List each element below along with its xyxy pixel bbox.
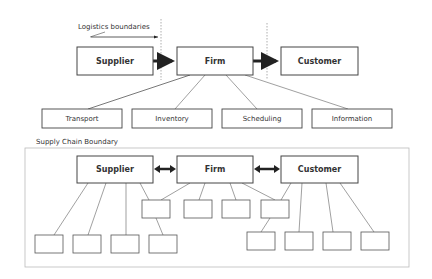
network-node bbox=[361, 232, 389, 250]
function-inventory: Inventory bbox=[132, 109, 212, 128]
supply-chain-diagram: Supply Chain Boundary bbox=[25, 138, 409, 267]
network-node bbox=[35, 235, 63, 253]
network-node bbox=[149, 235, 177, 253]
function-transport: Transport bbox=[42, 109, 122, 128]
node-firm-bottom: Firm bbox=[177, 156, 253, 183]
node-customer-bottom: Customer bbox=[281, 156, 358, 183]
network-node bbox=[323, 232, 351, 250]
network-node bbox=[247, 232, 275, 250]
firm-label: Firm bbox=[205, 165, 226, 174]
network-node bbox=[261, 200, 289, 218]
inventory-label: Inventory bbox=[155, 115, 188, 123]
supply-chain-boundary-label: Supply Chain Boundary bbox=[36, 138, 118, 146]
customer-label: Customer bbox=[298, 165, 341, 174]
network-node bbox=[73, 235, 101, 253]
information-label: Information bbox=[332, 115, 373, 123]
transport-label: Transport bbox=[65, 115, 99, 123]
network-node bbox=[222, 200, 250, 218]
firm-customer-double-arrow bbox=[254, 165, 280, 173]
function-scheduling: Scheduling bbox=[222, 109, 302, 128]
network-connectors bbox=[54, 183, 374, 235]
annotation-leader-line bbox=[90, 32, 105, 37]
network-node bbox=[184, 200, 212, 218]
node-firm-top: Firm bbox=[177, 47, 253, 75]
connector-firm-transport bbox=[88, 75, 190, 109]
connector-firm-inventory bbox=[175, 75, 205, 109]
connector-firm-information bbox=[245, 75, 348, 109]
network-nodes bbox=[35, 200, 389, 253]
logistics-boundaries-label: Logistics boundaries bbox=[78, 23, 150, 31]
firm-label: Firm bbox=[205, 57, 226, 66]
node-supplier-top: Supplier bbox=[77, 47, 153, 75]
customer-label: Customer bbox=[298, 57, 341, 66]
scheduling-label: Scheduling bbox=[243, 115, 282, 123]
logistics-diagram: Logistics boundaries Supplier Firm Custo… bbox=[42, 19, 392, 128]
function-information: Information bbox=[312, 109, 392, 128]
network-node bbox=[111, 235, 139, 253]
diagram-canvas: Logistics boundaries Supplier Firm Custo… bbox=[0, 0, 432, 279]
supplier-firm-double-arrow bbox=[154, 165, 176, 173]
supplier-label: Supplier bbox=[96, 165, 134, 174]
supplier-label: Supplier bbox=[96, 57, 134, 66]
node-customer-top: Customer bbox=[281, 47, 358, 75]
node-supplier-bottom: Supplier bbox=[77, 156, 153, 183]
connector-firm-scheduling bbox=[226, 75, 257, 109]
network-node bbox=[285, 232, 313, 250]
network-node bbox=[142, 200, 170, 218]
